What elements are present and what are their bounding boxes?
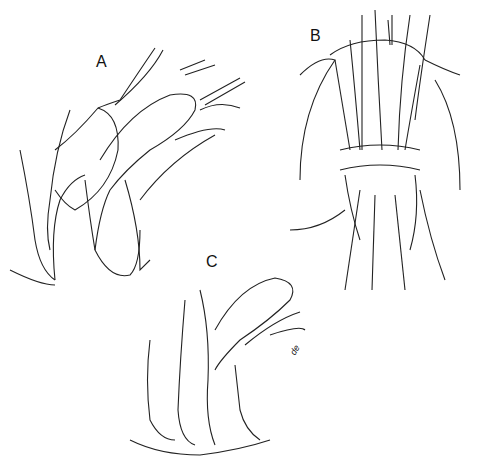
panel-c-drawing [130,278,305,455]
medical-illustration: A B C de [0,0,482,471]
panel-label-c: C [206,253,218,271]
panel-a-drawing [10,48,245,285]
panel-label-a: A [96,53,107,71]
panel-b-drawing [290,10,460,290]
panel-label-b: B [310,27,321,45]
illustration-drawing [0,0,482,471]
